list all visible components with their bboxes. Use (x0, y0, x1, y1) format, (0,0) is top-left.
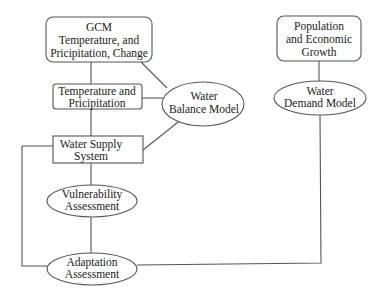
node-population-line-3: Growth (301, 46, 336, 58)
node-water-balance-line-1: Water (190, 90, 217, 102)
node-gcm-line-3: Pricipitation, Change (50, 47, 148, 60)
node-gcm-line-1: GCM (86, 21, 112, 33)
flowchart-canvas: GCM Temperature, and Pricipitation, Chan… (0, 0, 381, 293)
node-water-demand-line-1: Water (306, 85, 333, 97)
node-gcm-line-2: Temperature, and (59, 34, 140, 47)
node-temp-precip: Temperature and Pricipitation (53, 84, 142, 110)
edge-demand-adaptation (137, 115, 321, 265)
node-population-line-1: Population (294, 20, 344, 33)
node-adaptation-line-2: Assessment (65, 268, 120, 280)
node-population-line-2: and Economic (286, 33, 352, 45)
node-water-balance-line-2: Balance Model (169, 103, 239, 115)
node-water-supply: Water Supply System (53, 136, 143, 163)
edge-adaptation-supply-loop (22, 146, 53, 266)
node-population: Population and Economic Growth (277, 16, 361, 61)
node-water-balance: Water Balance Model (162, 82, 244, 126)
node-temp-precip-line-2: Pricipitation (69, 97, 126, 110)
node-water-demand: Water Demand Model (274, 81, 366, 115)
node-vulnerability: Vulnerability Assessment (47, 185, 137, 217)
edge-balance-supply (143, 119, 182, 150)
node-vulnerability-line-2: Assessment (65, 200, 120, 212)
node-gcm: GCM Temperature, and Pricipitation, Chan… (46, 17, 152, 62)
node-water-demand-line-2: Demand Model (284, 97, 356, 109)
node-adaptation: Adaptation Assessment (47, 253, 137, 285)
node-water-supply-line-2: System (74, 150, 108, 163)
edge-gcm-balance (141, 62, 167, 88)
